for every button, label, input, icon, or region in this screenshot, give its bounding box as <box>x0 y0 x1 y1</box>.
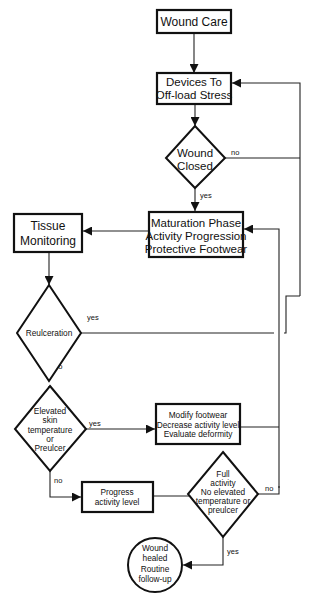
node-label: Reulceration <box>26 328 73 338</box>
edge-reulceration-yes-b <box>284 296 300 333</box>
node-reulceration: Reulceration <box>17 285 81 381</box>
label-closed-no: no <box>231 148 239 157</box>
node-label: activity level <box>95 497 140 507</box>
node-label: Modify footwear <box>169 410 228 420</box>
node-label: Wound <box>177 147 213 159</box>
node-label: Wound Care <box>160 15 227 29</box>
node-label: Evaluate deformity <box>164 429 234 439</box>
node-elevated-skin: Elevated skin temperature or Preulcer <box>15 386 86 471</box>
node-label: skin <box>43 415 58 425</box>
node-full-activity: Full activity No elevated temperature or… <box>188 452 258 537</box>
node-maturation: Maturation Phase Activity Progression Pr… <box>145 212 247 257</box>
node-label: Devices To <box>166 76 222 88</box>
edge-bus-maturation <box>244 229 279 488</box>
node-label: Monitoring <box>20 234 76 248</box>
edge-full-healed <box>183 537 223 565</box>
node-wound-healed: Wound healed Routine follow-up <box>128 538 182 592</box>
node-label: Tissue <box>31 219 66 233</box>
node-wound-closed: Wound Closed <box>166 126 225 188</box>
node-label: healed <box>143 553 168 563</box>
node-label: Closed <box>177 160 213 172</box>
node-label: Maturation Phase <box>151 217 241 229</box>
node-label: Off-load Stress <box>156 89 233 101</box>
node-wound-care: Wound Care <box>157 10 231 33</box>
node-label: follow-up <box>138 574 172 584</box>
edge-bus-devices <box>232 83 300 296</box>
node-modify-footwear: Modify footwear Decrease activity level … <box>156 404 240 444</box>
label-reulceration-yes: yes <box>87 313 99 322</box>
node-label: Preulcer <box>35 443 66 453</box>
node-devices: Devices To Off-load Stress <box>156 73 233 104</box>
node-tissue-monitoring: Tissue Monitoring <box>14 214 82 252</box>
label-full-yes: yes <box>227 547 239 556</box>
node-label: Activity Progression <box>146 230 247 242</box>
node-label: Routine <box>141 564 170 574</box>
node-progress-activity: Progress activity level <box>82 482 153 512</box>
node-label: Protective Footwear <box>145 243 247 255</box>
wound-care-flowchart: no yes yes no yes no no yes Wound Care D… <box>0 0 309 604</box>
node-label: preulcer <box>208 505 238 515</box>
label-closed-yes: yes <box>200 191 212 200</box>
label-full-no: no <box>265 484 273 493</box>
node-label: Progress <box>100 487 133 497</box>
node-label: Wound <box>142 543 169 553</box>
label-elevated-no: no <box>54 476 62 485</box>
label-elevated-yes: yes <box>89 419 101 428</box>
